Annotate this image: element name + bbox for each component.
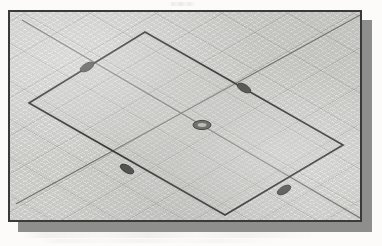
sketch-overlay — [10, 12, 362, 222]
scan-bleed-artifact-top — [170, 2, 196, 6]
grip-center-hole — [198, 123, 207, 127]
rectangle-profile[interactable] — [29, 32, 343, 215]
grip-edge-bottom-left[interactable] — [119, 162, 136, 176]
scan-bleed-artifact-bottom2 — [40, 239, 280, 243]
grip-edge-bottom-right[interactable] — [276, 183, 293, 197]
scan-bleed-artifact-bottom — [22, 232, 322, 238]
scanned-page — [0, 0, 382, 246]
graphics-viewport[interactable] — [8, 10, 362, 222]
